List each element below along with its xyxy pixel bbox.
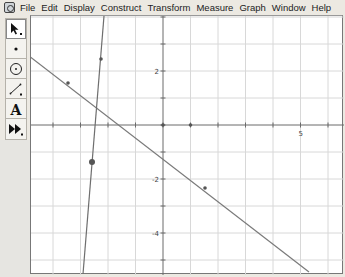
sketchpad-app-icon[interactable] [4, 2, 15, 13]
straightedge-icon [8, 81, 24, 97]
menu-edit[interactable]: Edit [39, 2, 61, 13]
point-on-steep-line-1[interactable] [99, 57, 103, 61]
y-tick-label: -4 [152, 230, 160, 238]
left-panel-background [0, 140, 30, 277]
selection-arrow-tool[interactable] [6, 19, 26, 39]
menu-window[interactable]: Window [270, 2, 310, 13]
sketch-canvas[interactable]: 52-2-4 [30, 15, 343, 274]
axis-point-unit-point[interactable] [189, 123, 193, 127]
straightedge-tool[interactable] [6, 79, 26, 99]
compass-circle-icon [8, 61, 24, 77]
point-tool[interactable] [6, 39, 26, 59]
custom-tools-icon [8, 121, 24, 137]
text-a-icon: A [8, 101, 24, 117]
menu-transform[interactable]: Transform [146, 2, 195, 13]
menu-file[interactable]: File [18, 2, 39, 13]
coordinate-plane[interactable]: 52-2-4 [31, 16, 344, 275]
menu-construct[interactable]: Construct [99, 2, 146, 13]
toolbox: A [5, 18, 27, 140]
compass-tool[interactable] [6, 59, 26, 79]
y-tick-label: 2 [155, 68, 159, 76]
text-tool[interactable]: A [6, 99, 26, 119]
menu-help[interactable]: Help [310, 2, 336, 13]
y-tick-label: -2 [152, 176, 159, 184]
steep-line[interactable] [83, 16, 104, 274]
custom-tools[interactable] [6, 119, 26, 139]
svg-text:A: A [10, 102, 23, 117]
menu-graph[interactable]: Graph [237, 2, 269, 13]
point-on-steep-line-2-selected[interactable] [89, 159, 95, 165]
decreasing-line[interactable] [31, 56, 309, 272]
point-icon [8, 41, 24, 57]
menu-bar: File Edit Display Construct Transform Me… [0, 0, 345, 15]
axis-point-origin[interactable] [161, 123, 165, 127]
arrow-icon [8, 21, 24, 37]
menu-measure[interactable]: Measure [194, 2, 237, 13]
menu-display[interactable]: Display [62, 2, 99, 13]
point-on-decreasing-line-1[interactable] [66, 81, 70, 85]
x-tick-label: 5 [299, 130, 303, 138]
point-on-decreasing-line-2[interactable] [203, 186, 207, 190]
